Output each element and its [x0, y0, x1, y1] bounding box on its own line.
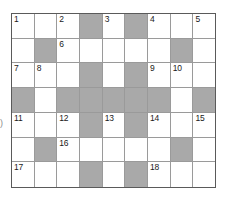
blocked-cell [80, 113, 103, 138]
cell-number: 17 [14, 162, 23, 173]
crossword-cell[interactable]: 17 [12, 162, 35, 187]
blocked-cell [103, 88, 126, 113]
crossword-cell[interactable] [103, 39, 126, 64]
crossword-cell[interactable] [148, 39, 171, 64]
blocked-cell [171, 39, 194, 64]
blocked-cell [57, 88, 80, 113]
crossword-cell[interactable]: 13 [103, 113, 126, 138]
crossword-cell[interactable]: 6 [57, 39, 80, 64]
blocked-cell [125, 14, 148, 39]
cell-number: 8 [37, 63, 42, 74]
crossword-cell[interactable]: 14 [148, 113, 171, 138]
cell-number: 12 [59, 113, 68, 124]
crossword-cell[interactable] [12, 138, 35, 163]
crossword-cell[interactable]: 10 [171, 63, 194, 88]
crossword-cell[interactable]: 16 [57, 138, 80, 163]
crossword-cell[interactable] [125, 138, 148, 163]
crossword-rows: 123456789101112131415161718 [12, 14, 215, 187]
blocked-cell [35, 138, 58, 163]
crossword-cell[interactable]: 4 [148, 14, 171, 39]
crossword-cell[interactable] [80, 138, 103, 163]
crossword-cell[interactable] [103, 63, 126, 88]
cell-number: 4 [150, 14, 155, 25]
cell-number: 18 [150, 162, 159, 173]
cell-number: 6 [59, 39, 64, 50]
crossword-cell[interactable] [171, 14, 194, 39]
blocked-cell [171, 138, 194, 163]
crossword-cell[interactable] [35, 162, 58, 187]
cell-number: 9 [150, 63, 155, 74]
cell-number: 5 [195, 14, 200, 25]
crossword-cell[interactable] [193, 39, 215, 64]
crossword-cell[interactable]: 5 [193, 14, 215, 39]
crossword-cell[interactable] [35, 88, 58, 113]
crossword-cell[interactable] [103, 138, 126, 163]
blocked-cell [80, 162, 103, 187]
crossword-cell[interactable] [148, 138, 171, 163]
cell-number: 11 [14, 113, 22, 124]
crossword-cell[interactable] [103, 162, 126, 187]
crossword-row: 1718 [12, 162, 215, 187]
crossword-cell[interactable] [171, 113, 194, 138]
blocked-cell [35, 39, 58, 64]
cell-number: 15 [195, 113, 204, 124]
crossword-cell[interactable] [12, 39, 35, 64]
crossword-cell[interactable] [80, 39, 103, 64]
crossword-cell[interactable] [193, 138, 215, 163]
blocked-cell [80, 88, 103, 113]
blocked-cell [125, 63, 148, 88]
blocked-cell [80, 63, 103, 88]
crossword-cell[interactable] [35, 14, 58, 39]
crossword-cell[interactable]: 1 [12, 14, 35, 39]
blocked-cell [148, 88, 171, 113]
crossword-cell[interactable] [171, 88, 194, 113]
crossword-cell[interactable] [35, 113, 58, 138]
cell-number: 10 [173, 63, 182, 74]
blocked-cell [125, 88, 148, 113]
cell-number: 13 [105, 113, 114, 124]
crossword-grid: 123456789101112131415161718 [11, 13, 216, 188]
crossword-cell[interactable]: 12 [57, 113, 80, 138]
cell-number: 2 [59, 14, 64, 25]
crossword-row [12, 88, 215, 113]
crossword-cell[interactable] [125, 39, 148, 64]
crossword-row: 12345 [12, 14, 215, 39]
cell-number: 7 [14, 63, 19, 74]
crossword-row: 6 [12, 39, 215, 64]
crossword-cell[interactable]: 2 [57, 14, 80, 39]
crossword-cell[interactable]: 18 [148, 162, 171, 187]
blocked-cell [125, 162, 148, 187]
crossword-cell[interactable]: 9 [148, 63, 171, 88]
crossword-cell[interactable] [57, 162, 80, 187]
crossword-cell[interactable] [193, 162, 215, 187]
crossword-cell[interactable]: 8 [35, 63, 58, 88]
crossword-cell[interactable] [57, 63, 80, 88]
cell-number: 3 [105, 14, 110, 25]
blocked-cell [80, 14, 103, 39]
blocked-cell [125, 113, 148, 138]
cell-number: 14 [150, 113, 159, 124]
crossword-cell[interactable]: 7 [12, 63, 35, 88]
crossword-row: 16 [12, 138, 215, 163]
crossword-row: 78910 [12, 63, 215, 88]
crossword-cell[interactable]: 3 [103, 14, 126, 39]
crossword-row: 1112131415 [12, 113, 215, 138]
edge-marker: ) [0, 118, 3, 129]
blocked-cell [12, 88, 35, 113]
crossword-cell[interactable] [171, 162, 194, 187]
cell-number: 1 [14, 14, 19, 25]
cell-number: 16 [59, 138, 68, 149]
crossword-cell[interactable]: 15 [193, 113, 215, 138]
crossword-cell[interactable] [193, 63, 215, 88]
blocked-cell [193, 88, 215, 113]
crossword-cell[interactable]: 11 [12, 113, 35, 138]
